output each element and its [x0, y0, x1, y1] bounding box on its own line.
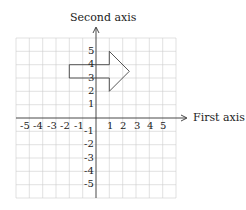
y-axis-label: Second axis	[70, 11, 136, 24]
coordinate-plane	[0, 0, 246, 210]
x-axis-label: First axis	[193, 111, 245, 124]
arrow-shape	[69, 51, 129, 91]
